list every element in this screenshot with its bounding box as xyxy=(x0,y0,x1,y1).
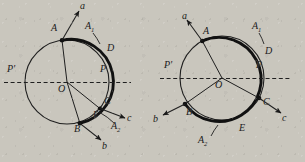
right-radius-OA xyxy=(202,41,222,78)
right-label-P-prime: P' xyxy=(164,60,172,70)
right-bold-arc xyxy=(185,37,261,121)
left-label-C: C xyxy=(104,96,111,106)
right-leader-A2 xyxy=(211,125,218,136)
right-label-D: D xyxy=(265,46,272,56)
right-label-O: O xyxy=(215,80,222,90)
left-label-P: P xyxy=(100,64,106,74)
right-label-A2: A2 xyxy=(198,135,207,148)
left-ray-b xyxy=(80,123,101,140)
left-label-B: B xyxy=(74,124,80,134)
left-label-A: A xyxy=(51,23,57,33)
right-label-A1: A1 xyxy=(252,21,261,34)
right-label-P: P xyxy=(256,60,262,70)
figure-canvas: A B C P P' O A1 D E A2 a b c A B C P P' … xyxy=(0,0,305,162)
right-radius-OC xyxy=(222,78,259,98)
right-label-ray-a: a xyxy=(182,11,187,21)
right-leader-A1 xyxy=(259,33,264,44)
left-ray-c xyxy=(100,109,125,119)
left-label-E: E xyxy=(93,110,98,119)
right-label-ray-b: b xyxy=(153,114,158,124)
left-label-O: O xyxy=(58,84,65,94)
left-label-ray-b: b xyxy=(102,141,107,151)
right-diagram xyxy=(160,20,292,136)
right-label-E: E xyxy=(239,123,245,133)
left-label-P-prime: P' xyxy=(7,64,15,74)
left-ray-a xyxy=(62,11,79,40)
right-label-ray-c: c xyxy=(282,113,286,123)
right-label-A: A xyxy=(203,26,209,36)
left-label-D: D xyxy=(107,43,114,53)
right-ray-b xyxy=(163,104,185,115)
left-label-A1: A1 xyxy=(85,21,94,34)
left-radius-OC xyxy=(67,82,100,109)
left-leader-A1 xyxy=(93,33,100,44)
right-ray-a xyxy=(187,20,202,41)
right-label-B: B xyxy=(186,107,192,117)
left-label-ray-a: a xyxy=(80,1,85,11)
left-label-A2: A2 xyxy=(111,121,120,134)
left-radius-OA xyxy=(62,40,67,82)
left-radius-OB xyxy=(67,82,80,123)
left-label-ray-c: c xyxy=(127,113,131,123)
right-label-C: C xyxy=(263,97,270,107)
